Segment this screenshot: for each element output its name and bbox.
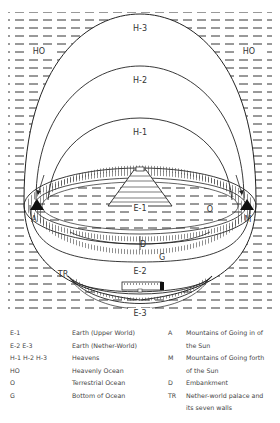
legend-desc-cont: the Sun — [186, 340, 210, 353]
cosmology-diagram: H-3 H-2 H-1 HO HO E-1 O A M D G TR E-2 E… — [0, 0, 280, 318]
legend-item: HOHeavenly Ocean — [10, 365, 140, 378]
label-e2: E-2 — [133, 267, 146, 276]
legend-desc: Mountains of Going in of — [186, 327, 263, 340]
label-d: D — [140, 240, 146, 249]
legend-item: OTerrestrial Ocean — [10, 377, 140, 390]
legend-code: G — [10, 390, 15, 403]
label-a: A — [31, 215, 37, 224]
legend-code: H-1 H-2 H-3 — [10, 352, 47, 365]
label-ho-left: HO — [33, 47, 45, 56]
label-tr: TR — [57, 270, 69, 279]
legend-desc: Nether-world palace and — [186, 390, 263, 403]
legend-right-column: AMountains of Going in of the Sun MMount… — [168, 327, 278, 415]
legend-desc: Embankment — [186, 377, 228, 390]
label-o: O — [207, 205, 213, 214]
legend-item: MMountains of Going forth — [168, 352, 278, 365]
label-m: M — [245, 215, 252, 224]
legend-desc: Mountains of Going forth — [186, 352, 264, 365]
legend-item: E-2 E-3Earth (Nether-World) — [10, 340, 140, 353]
legend-item: TRNether-world palace and — [168, 390, 278, 403]
legend-desc: Earth (Upper World) — [72, 327, 135, 340]
legend-item: AMountains of Going in of — [168, 327, 278, 340]
legend-desc: Heavenly Ocean — [72, 365, 124, 378]
legend-item: E-1Earth (Upper World) — [10, 327, 140, 340]
legend-left-column: E-1Earth (Upper World) E-2 E-3Earth (Net… — [10, 327, 140, 402]
label-h3: H-3 — [133, 24, 147, 33]
legend-code: E-2 E-3 — [10, 340, 33, 353]
legend-code: A — [168, 327, 172, 340]
label-ho-right: HO — [243, 47, 255, 56]
legend-code: HO — [10, 365, 20, 378]
legend-code: O — [10, 377, 15, 390]
legend-code: E-1 — [10, 327, 20, 340]
legend-desc: Bottom of Ocean — [72, 390, 125, 403]
legend-item-cont: its seven walls — [168, 402, 278, 415]
label-g: G — [159, 253, 165, 262]
legend-code: TR — [168, 390, 176, 403]
legend-desc-cont: of the Sun — [186, 365, 218, 378]
label-e3: E-3 — [133, 309, 146, 318]
legend-item: DEmbankment — [168, 377, 278, 390]
legend-item: H-1 H-2 H-3Heavens — [10, 352, 140, 365]
legend-desc: Earth (Nether-World) — [72, 340, 137, 353]
label-h1: H-1 — [133, 128, 147, 137]
legend-code: D — [168, 377, 173, 390]
legend-desc: Heavens — [72, 352, 99, 365]
legend-item: GBottom of Ocean — [10, 390, 140, 403]
legend-desc-cont: its seven walls — [186, 402, 232, 415]
legend-item-cont: the Sun — [168, 340, 278, 353]
legend-code: M — [168, 352, 173, 365]
label-e1: E-1 — [133, 204, 146, 213]
legend-item-cont: of the Sun — [168, 365, 278, 378]
label-h2: H-2 — [133, 76, 147, 85]
legend-desc: Terrestrial Ocean — [72, 377, 125, 390]
